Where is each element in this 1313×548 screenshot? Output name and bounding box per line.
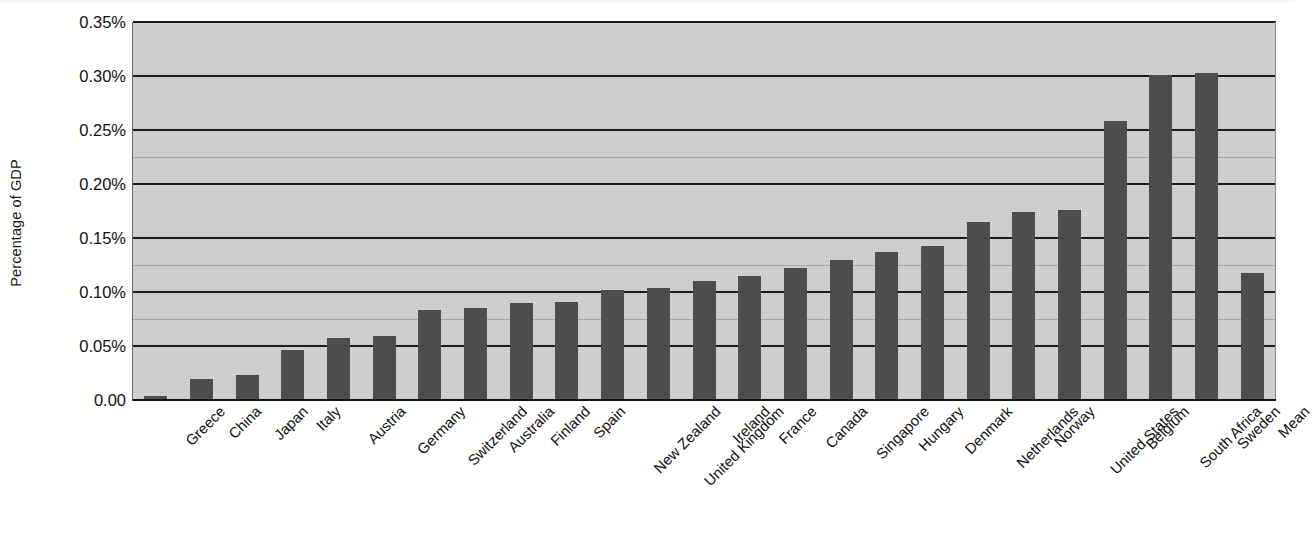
x-tick-label: Canada: [824, 404, 871, 451]
bar: [1058, 210, 1081, 400]
bar: [967, 222, 990, 400]
y-tick-label: 0.30%: [40, 68, 126, 85]
bar: [236, 375, 259, 400]
plot-area: [133, 22, 1275, 400]
x-axis-baseline: [133, 399, 1276, 401]
bar: [784, 268, 807, 400]
bar: [464, 308, 487, 400]
bar: [373, 336, 396, 400]
bar: [1149, 75, 1172, 400]
bar: [190, 379, 213, 400]
x-tick-label: Germany: [415, 404, 468, 457]
scan-edge-artifact: [0, 0, 1295, 3]
bar: [418, 310, 441, 400]
y-tick-label: 0.10%: [40, 284, 126, 301]
plot-right-border: [1275, 22, 1276, 401]
bar: [601, 290, 624, 400]
bar: [830, 260, 853, 400]
bar: [693, 281, 716, 400]
bar: [281, 350, 304, 400]
plot-top-border: [133, 21, 1276, 23]
y-tick-label: 0.35%: [40, 14, 126, 31]
x-axis-tick-labels: GreeceChinaJapanItalyAustriaGermanySwitz…: [0, 404, 1295, 544]
y-axis-tick-labels: 0.35%0.30%0.25%0.20%0.15%0.10%0.05%0.00: [40, 0, 126, 420]
y-tick-label: 0.15%: [40, 230, 126, 247]
bar: [1195, 73, 1218, 400]
x-tick-label: Finland: [548, 404, 593, 449]
bar: [1241, 273, 1264, 400]
bar: [875, 252, 898, 400]
bar: [647, 288, 670, 400]
y-axis-title: Percentage of GDP: [8, 123, 24, 323]
y-tick-label: 0.20%: [40, 176, 126, 193]
bar: [1012, 212, 1035, 400]
x-tick-label: China: [226, 404, 264, 442]
x-tick-label: Mean: [1276, 404, 1313, 441]
bar: [1104, 121, 1127, 400]
y-axis-spine: [132, 22, 133, 401]
bar: [327, 338, 350, 400]
bar: [921, 246, 944, 400]
y-tick-label: 0.25%: [40, 122, 126, 139]
x-tick-label: Greece: [183, 404, 228, 449]
x-tick-label: Japan: [272, 404, 311, 443]
bar: [738, 276, 761, 400]
x-tick-label: Singapore: [874, 404, 932, 462]
x-tick-label: Italy: [314, 404, 344, 434]
x-tick-label: Denmark: [963, 404, 1016, 457]
y-tick-label: 0.05%: [40, 338, 126, 355]
gridline: [133, 75, 1275, 77]
x-tick-label: Spain: [591, 404, 628, 441]
x-tick-label: Austria: [365, 404, 408, 447]
bar: [510, 303, 533, 400]
bar: [555, 302, 578, 400]
